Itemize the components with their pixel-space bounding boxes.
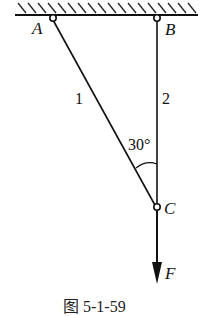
label-B: B [165, 20, 176, 39]
label-member-1: 1 [75, 90, 83, 107]
pin-C [154, 204, 160, 210]
force-arrow-head [152, 262, 162, 284]
label-member-2: 2 [162, 90, 170, 107]
figure-caption: 图 5-1-59 [63, 298, 126, 315]
label-F: F [164, 264, 176, 283]
angle-arc [136, 163, 157, 168]
label-A: A [31, 19, 43, 38]
truss-diagram: A B C 1 2 30° F 图 5-1-59 [0, 0, 205, 316]
member-1 [53, 20, 156, 207]
pin-A [50, 15, 56, 21]
ceiling-hatch [18, 3, 196, 13]
angle-label: 30° [128, 136, 150, 153]
label-C: C [164, 199, 176, 218]
pin-B [154, 15, 160, 21]
